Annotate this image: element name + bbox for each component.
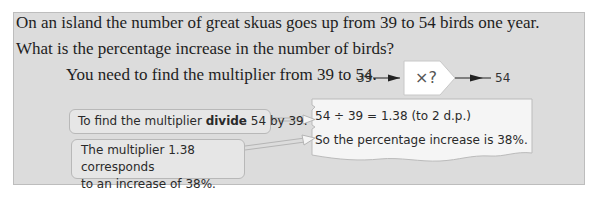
working-note: 54 ÷ 39 = 1.38 (to 2 d.p.) So the percen…	[315, 104, 528, 152]
flow-operation: ×?	[415, 68, 437, 87]
callout-divide: To find the multiplier divide 54 by 39.	[69, 109, 271, 134]
arrow-out-icon	[455, 75, 491, 82]
flow-start-value: 39	[357, 71, 372, 85]
arrow-in-icon	[373, 75, 400, 82]
working-line-1: 54 ÷ 39 = 1.38 (to 2 d.p.)	[315, 104, 528, 128]
callout-multiplier-line-2: to an increase of 38%.	[81, 176, 235, 193]
callout-multiplier-line-1: The multiplier 1.38 corresponds	[81, 142, 235, 176]
callout-divide-before: To find the multiplier	[78, 114, 206, 128]
working-line-2: So the percentage increase is 38%.	[315, 128, 528, 152]
flow-end-value: 54	[495, 71, 510, 85]
connector-arrow-2	[245, 135, 315, 150]
callout-multiplier: The multiplier 1.38 corresponds to an in…	[71, 139, 245, 179]
callout-divide-bold: divide	[206, 114, 247, 128]
callout-divide-after: 54 by 39.	[247, 114, 308, 128]
